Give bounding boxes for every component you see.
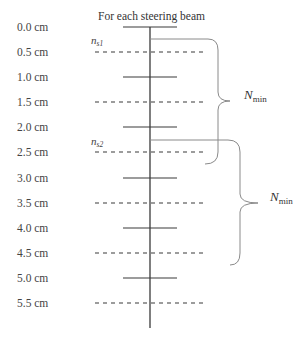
brace-1-label-sub: min [253,94,267,104]
brace-2-icon [150,140,258,265]
brace-2-label-base: N [270,189,279,204]
depth-label: 3.5 cm [17,197,48,209]
depth-label: 1.5 cm [17,96,48,108]
depth-label: 1.0 cm [17,71,48,83]
diagram-title: For each steering beam [98,10,205,22]
brace-2-label-sub: min [279,196,293,206]
brace-1-label-base: N [244,87,253,102]
marker-ns2: ns2 [91,135,103,149]
depth-label: 3.0 cm [17,172,48,184]
depth-label: 0.0 cm [17,21,48,33]
depth-label: 5.0 cm [17,272,48,284]
depth-label: 4.5 cm [17,247,48,259]
depth-label: 0.5 cm [17,46,48,58]
marker-ns2-sub: s2 [97,140,104,149]
marker-ns1: ns1 [91,34,103,48]
brace-1-label: Nmin [244,87,267,104]
depth-label: 4.0 cm [17,222,48,234]
depth-label: 2.0 cm [17,121,48,133]
steering-beam-diagram: For each steering beam 0.0 cm 0.5 cm 1.0… [0,0,305,349]
brace-2-label: Nmin [270,189,293,206]
depth-label: 5.5 cm [17,297,48,309]
depth-label: 2.5 cm [17,146,48,158]
marker-ns1-sub: s1 [97,39,104,48]
